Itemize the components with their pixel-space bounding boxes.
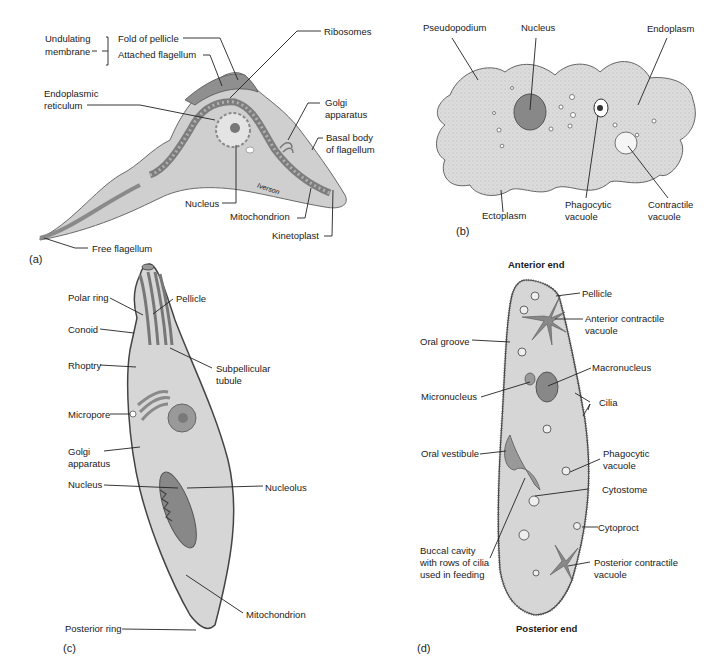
amoeba-illustration: [436, 62, 695, 196]
phagocytic-vacuole-label-b: Phagocytic: [565, 199, 611, 211]
pseudopodium-label: Pseudopodium: [423, 22, 486, 34]
nucleus-label-b: Nucleus: [521, 22, 555, 34]
basal-body-label: Basal body: [326, 132, 373, 144]
basal-body-label-line2: of flagellum: [326, 144, 375, 156]
fold-of-pellicle-label: Fold of pellicle: [118, 33, 179, 45]
posterior-contractile-vacuole-label: Posterior contractile: [594, 557, 678, 569]
posterior-end-label: Posterior end: [516, 623, 577, 635]
subpellicular-tubule-label-line2: tubule: [216, 375, 242, 387]
nucleus-label-a: Nucleus: [185, 198, 219, 210]
undulating-membrane-label: Undulating: [45, 33, 90, 45]
kinetoplast-label: Kinetoplast: [272, 230, 319, 242]
endoplasmic-reticulum-label-line2: reticulum: [44, 100, 83, 112]
cytoproct-label: Cytoproct: [598, 522, 639, 534]
contractile-vacuole-label: Contractile: [648, 199, 693, 211]
attached-flagellum-label: Attached flagellum: [118, 49, 196, 61]
endoplasmic-reticulum-label: Endoplasmic: [44, 88, 98, 100]
endoplasm-label: Endoplasm: [647, 23, 695, 35]
golgi-apparatus-label-c: Golgi: [68, 446, 90, 458]
rhoptry-label: Rhoptry: [68, 360, 101, 372]
oral-vestibule-label: Oral vestibule: [421, 448, 479, 460]
ribosomes-label: Ribosomes: [324, 26, 372, 38]
free-flagellum-label: Free flagellum: [92, 243, 152, 255]
macronucleus-label: Macronucleus: [592, 362, 651, 374]
pellicle-label-c: Pellicle: [176, 293, 206, 305]
undulating-membrane-label-line2: membrane: [45, 46, 90, 58]
pellicle-label-d: Pellicle: [582, 288, 612, 300]
golgi-apparatus-label-c-line2: apparatus: [68, 458, 110, 470]
contractile-vacuole-label-line2: vacuole: [648, 211, 681, 223]
phagocytic-vacuole-label-d: Phagocytic: [603, 448, 649, 460]
panel-c-tag: (c): [63, 642, 76, 654]
oral-groove-label: Oral groove: [420, 336, 470, 348]
phagocytic-vacuole-label-b-line2: vacuole: [565, 211, 598, 223]
phagocytic-vacuole-label-d-line2: vacuole: [603, 460, 636, 472]
buccal-cavity-label-line3: used in feeding: [420, 569, 484, 581]
buccal-cavity-label: Buccal cavity: [420, 545, 475, 557]
posterior-contractile-vacuole-label-line2: vacuole: [594, 569, 627, 581]
buccal-cavity-label-line2: with rows of cilia: [420, 557, 489, 569]
subpellicular-tubule-label: Subpellicular: [216, 363, 270, 375]
ectoplasm-label: Ectoplasm: [482, 210, 526, 222]
cytostome-label: Cytostome: [602, 484, 647, 496]
golgi-apparatus-label-line2: apparatus: [325, 109, 367, 121]
panel-d-tag: (d): [417, 642, 430, 654]
nucleus-label-c: Nucleus: [68, 479, 102, 491]
panel-b-tag: (b): [456, 225, 469, 237]
anterior-contractile-vacuole-label-line2: vacuole: [585, 325, 618, 337]
posterior-ring-label: Posterior ring: [65, 623, 122, 635]
panel-a-tag: (a): [29, 253, 42, 265]
anterior-end-label: Anterior end: [508, 259, 564, 271]
golgi-apparatus-label: Golgi: [325, 97, 347, 109]
polar-ring-label: Polar ring: [68, 292, 109, 304]
micronucleus-label: Micronucleus: [421, 391, 477, 403]
cilia-label: Cilia: [599, 397, 617, 409]
anterior-contractile-vacuole-label: Anterior contractile: [585, 313, 664, 325]
mitochondrion-label-c: Mitochondrion: [246, 609, 306, 621]
conoid-label: Conoid: [68, 324, 98, 336]
mitochondrion-label-a: Mitochondrion: [230, 211, 290, 223]
nucleolus-label: Nucleolus: [265, 482, 307, 494]
micropore-label: Micropore: [68, 409, 110, 421]
apicomplexan-illustration: [128, 264, 234, 628]
